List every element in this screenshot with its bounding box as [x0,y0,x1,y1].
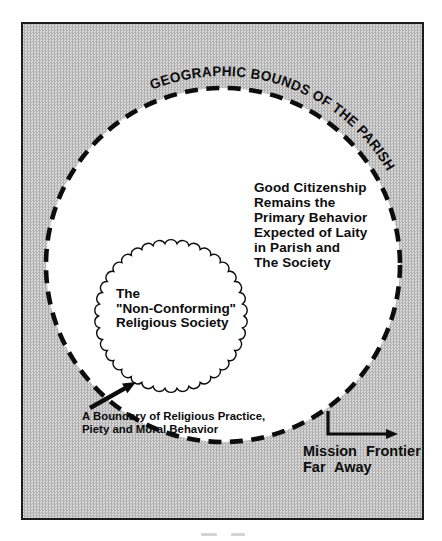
boundary-annotation: A Boundary of Religious Practice, Piety … [82,410,265,435]
mission-arrow [328,411,391,434]
society-label: The "Non-Conforming" Religious Society [116,287,236,331]
caption-remnant-mark [201,533,217,536]
mission-arrowhead-icon [386,429,398,439]
center-message: Good Citizenship Remains the Primary Beh… [254,180,367,270]
mission-label: Mission Frontier Far Away [303,443,421,475]
caption-remnant-mark [231,533,245,536]
